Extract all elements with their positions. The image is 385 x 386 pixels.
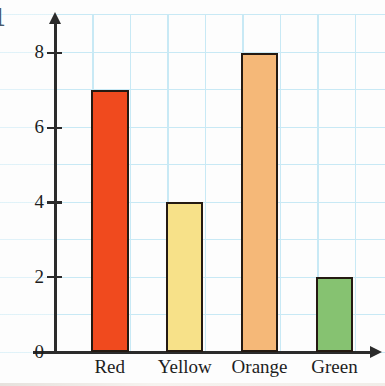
y-tick-label-4: 4: [22, 192, 44, 211]
y-tick-6: [47, 127, 62, 129]
y-axis-line: [54, 22, 57, 353]
x-axis-label-orange: Orange: [221, 357, 299, 376]
bar-yellow-fill: [168, 204, 202, 350]
y-tick-0: [47, 351, 62, 353]
figure-canvas: 1 0 2 4 6 8 Red Yellow Orange Green: [0, 0, 385, 386]
x-axis-label-red: Red: [71, 357, 149, 376]
bar-red-fill: [93, 92, 127, 350]
y-tick-8: [47, 52, 62, 54]
y-tick-label-2: 2: [22, 267, 44, 286]
bar-green[interactable]: [316, 277, 354, 352]
bar-chart-plot: 0 2 4 6 8 Red Yellow Orange Green: [0, 0, 385, 386]
bar-orange[interactable]: [241, 53, 279, 352]
x-axis-label-yellow: Yellow: [146, 357, 224, 376]
y-tick-label-6: 6: [22, 117, 44, 136]
y-tick-label-0: 0: [22, 342, 44, 361]
bar-orange-fill: [243, 55, 277, 350]
bar-red[interactable]: [91, 90, 129, 352]
bar-yellow[interactable]: [166, 202, 204, 352]
y-tick-2: [47, 276, 62, 278]
y-tick-label-8: 8: [22, 42, 44, 61]
bar-green-fill: [318, 279, 352, 350]
y-axis-arrowhead-icon: [49, 12, 61, 24]
x-axis-label-green: Green: [296, 357, 374, 376]
y-tick-4: [47, 201, 62, 203]
